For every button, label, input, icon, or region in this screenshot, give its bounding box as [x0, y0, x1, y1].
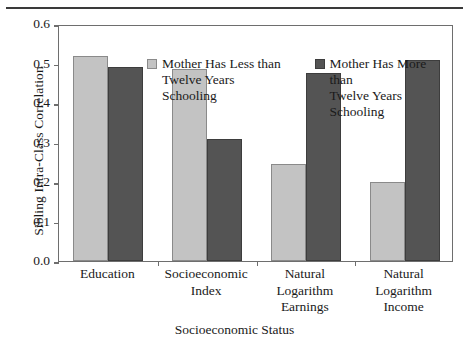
x-category-label-1: Socioeconomic Index — [157, 266, 256, 299]
y-tick-label: 0.3 — [4, 135, 50, 151]
y-tick-label: 0.4 — [4, 95, 50, 111]
bar-group-2-series-0 — [271, 164, 306, 261]
light-gray-swatch-icon — [147, 59, 157, 69]
x-category-label-3: Natural Logarithm Income — [354, 266, 453, 316]
bar-group-1-series-1 — [207, 139, 242, 261]
y-tick-label: 0.6 — [4, 16, 50, 32]
y-tick-mark — [54, 65, 59, 66]
y-tick-mark — [54, 262, 59, 263]
x-category-label-2: Natural Logarithm Earnings — [256, 266, 355, 316]
legend-entry-less-than-twelve: Mother Has Less than Twelve Years School… — [147, 56, 285, 120]
y-tick-label: 0.0 — [4, 253, 50, 269]
top-horizontal-rule — [6, 7, 463, 9]
y-tick-mark — [54, 104, 59, 105]
legend-entry-more-than-twelve: Mother Has More than Twelve Years School… — [315, 56, 453, 120]
y-tick-label: 0.2 — [4, 174, 50, 190]
dark-gray-swatch-icon — [315, 59, 325, 69]
x-axis-title: Socioeconomic Status — [0, 322, 469, 338]
x-category-label-0: Education — [58, 266, 157, 283]
y-tick-mark — [54, 25, 59, 26]
bar-group-0-series-1 — [108, 67, 143, 261]
y-tick-mark — [54, 183, 59, 184]
y-tick-label: 0.5 — [4, 56, 50, 72]
y-tick-label: 0.1 — [4, 214, 50, 230]
legend-label-less-than-twelve: Mother Has Less than Twelve Years School… — [162, 56, 285, 104]
figure-bar-chart: Sibling Intra-Class Correlation 0.00.10.… — [0, 0, 469, 349]
bar-group-3-series-0 — [370, 182, 405, 261]
plot-area: 0.00.10.20.30.40.50.6 Mother Has Less th… — [58, 25, 453, 262]
y-tick-mark — [54, 223, 59, 224]
bar-group-0-series-0 — [73, 56, 108, 261]
legend-label-more-than-twelve: Mother Has More than Twelve Years School… — [330, 56, 453, 120]
y-tick-mark — [54, 144, 59, 145]
chart-legend: Mother Has Less than Twelve Years School… — [147, 56, 452, 120]
